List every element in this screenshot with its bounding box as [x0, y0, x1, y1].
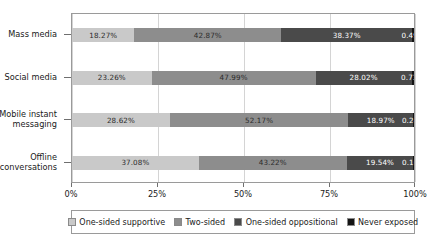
legend-item[interactable]: One-sided oppositional — [234, 218, 337, 227]
bar-segment-value: 0.49% — [402, 32, 415, 39]
bar-segment-value: 28.02% — [350, 74, 378, 81]
bar-segment-value: 18.27% — [89, 32, 117, 39]
stacked-bar: 23.26%47.99%28.02%0.73% — [72, 71, 414, 85]
y-axis-label: Social media — [0, 72, 57, 82]
bar-segment-value: 37.08% — [121, 159, 149, 166]
bar-segment-value: 0.73% — [401, 74, 414, 81]
bar-segment-value: 23.26% — [98, 74, 126, 81]
stacked-bar: 18.27%42.87%38.37%0.49% — [72, 28, 414, 42]
bar-segment: 0.16% — [413, 156, 414, 170]
legend-swatch — [68, 218, 76, 226]
chart-legend: One-sided supportiveTwo-sidedOne-sided o… — [71, 210, 415, 234]
bar-row: 23.26%47.99%28.02%0.73% — [72, 57, 414, 100]
x-axis-tick-label: 75% — [320, 189, 338, 199]
legend-item[interactable]: One-sided supportive — [68, 218, 165, 227]
legend-swatch — [174, 218, 182, 226]
bar-segment: 0.24% — [413, 113, 414, 127]
legend-swatch — [234, 218, 242, 226]
stacked-bar: 37.08%43.22%19.54%0.16% — [72, 156, 414, 170]
bar-row: 37.08%43.22%19.54%0.16% — [72, 142, 414, 185]
bar-segment-value: 52.17% — [245, 117, 273, 124]
bar-segment: 52.17% — [170, 113, 348, 127]
bar-segment: 47.99% — [152, 71, 316, 85]
bar-segment-value: 0.24% — [402, 117, 414, 124]
y-axis-tick — [64, 119, 71, 120]
bar-segment-value: 42.87% — [194, 32, 222, 39]
bar-segment: 0.73% — [412, 71, 414, 85]
legend-item[interactable]: Never exposed — [347, 218, 419, 227]
x-axis-tick — [157, 183, 158, 187]
stacked-bar-chart: Mass mediaSocial mediaMobile instant mes… — [0, 0, 429, 245]
bar-segment: 28.02% — [316, 71, 412, 85]
bar-segment-value: 0.16% — [402, 159, 414, 166]
y-axis: Mass mediaSocial mediaMobile instant mes… — [0, 13, 64, 183]
bar-segment: 43.22% — [199, 156, 347, 170]
bar-segment-value: 19.54% — [366, 159, 394, 166]
bar-segment-value: 47.99% — [220, 74, 248, 81]
legend-swatch — [347, 218, 355, 226]
bar-segment-value: 18.97% — [367, 117, 395, 124]
x-axis-tick-label: 0% — [65, 189, 78, 199]
y-axis-label: Mobile instant messaging — [0, 109, 57, 129]
y-axis-label: Mass media — [0, 29, 57, 39]
x-axis-tick-label: 50% — [234, 189, 252, 199]
plot-area: 18.27%42.87%38.37%0.49%23.26%47.99%28.02… — [71, 13, 415, 183]
bar-segment: 42.87% — [134, 28, 281, 42]
x-axis-tick — [414, 183, 415, 187]
y-axis-tick — [64, 34, 71, 35]
x-axis-tick — [71, 183, 72, 187]
legend-label: One-sided supportive — [79, 218, 165, 227]
legend-label: One-sided oppositional — [246, 218, 338, 227]
y-axis-tick — [64, 162, 71, 163]
bar-segment-value: 28.62% — [107, 117, 135, 124]
legend-label: Never exposed — [358, 218, 418, 227]
gridline-100pct — [415, 14, 416, 182]
x-axis-tick-label: 100% — [403, 189, 426, 199]
x-axis: 0%25%50%75%100% — [71, 183, 415, 205]
bar-segment: 28.62% — [72, 113, 170, 127]
bar-segment: 37.08% — [72, 156, 199, 170]
legend-label: Two-sided — [186, 218, 226, 227]
bar-segment-value: 43.22% — [259, 159, 287, 166]
bar-segment-value: 38.37% — [333, 32, 361, 39]
x-axis-tick-label: 25% — [148, 189, 166, 199]
bar-segment: 23.26% — [72, 71, 152, 85]
stacked-bar: 28.62%52.17%18.97%0.24% — [72, 113, 414, 127]
x-axis-tick — [243, 183, 244, 187]
bar-segment: 18.27% — [72, 28, 134, 42]
legend-item[interactable]: Two-sided — [174, 218, 225, 227]
x-axis-tick — [329, 183, 330, 187]
y-axis-label: Offline conversations — [0, 152, 57, 172]
bar-row: 28.62%52.17%18.97%0.24% — [72, 99, 414, 142]
bars-layer: 18.27%42.87%38.37%0.49%23.26%47.99%28.02… — [72, 14, 414, 182]
bar-row: 18.27%42.87%38.37%0.49% — [72, 14, 414, 57]
bar-segment: 38.37% — [281, 28, 412, 42]
bar-segment: 0.49% — [412, 28, 414, 42]
y-axis-tick — [64, 77, 71, 78]
